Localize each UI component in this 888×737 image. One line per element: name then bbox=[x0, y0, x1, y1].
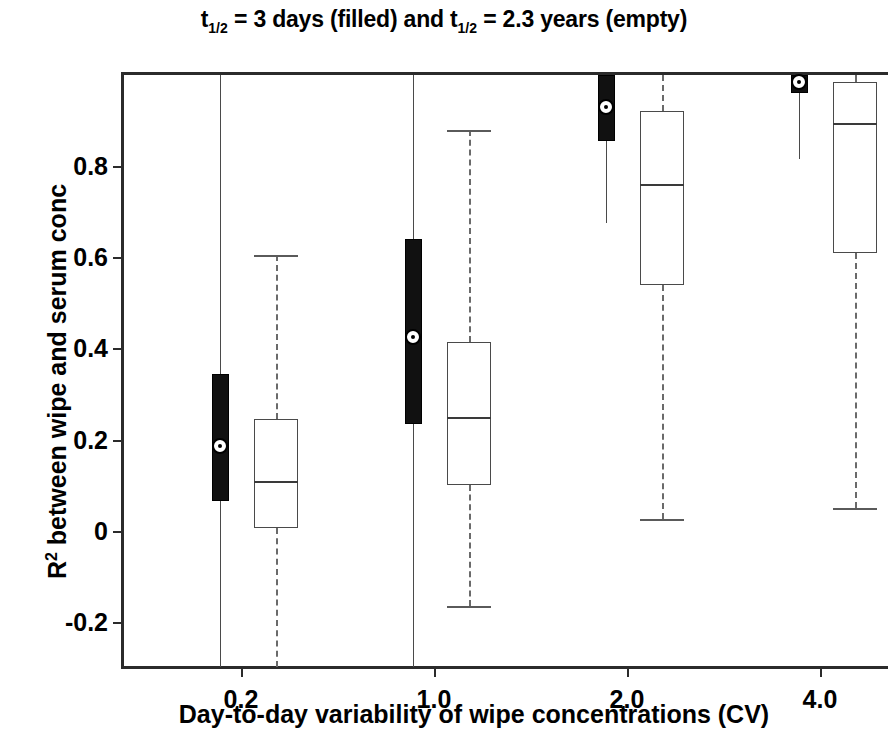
median-marker bbox=[598, 99, 614, 115]
title-t-second: t bbox=[450, 6, 457, 32]
y-tick-label: 0.8 bbox=[0, 154, 124, 179]
median-line bbox=[640, 184, 684, 186]
median-marker bbox=[405, 329, 421, 345]
whisker-lower bbox=[855, 253, 857, 508]
boxplot-empty bbox=[124, 75, 888, 666]
y-tick-label: 0.6 bbox=[0, 245, 124, 270]
whisker-lower bbox=[413, 424, 414, 668]
title-middle-second: = 2.3 years (empty) bbox=[477, 6, 687, 32]
boxplot-filled bbox=[124, 75, 888, 666]
whisker-lower bbox=[469, 485, 471, 606]
x-tick-mark bbox=[434, 666, 436, 677]
box-iqr-empty bbox=[254, 419, 298, 528]
x-tick-label: 1.0 bbox=[364, 685, 504, 714]
box-iqr-empty bbox=[640, 111, 684, 284]
median-marker bbox=[791, 74, 807, 90]
whisker-cap-lower bbox=[640, 519, 684, 521]
whisker-cap-upper bbox=[447, 130, 491, 132]
boxplot-empty bbox=[124, 75, 888, 666]
boxplot-filled bbox=[124, 75, 888, 666]
whisker-upper bbox=[469, 130, 471, 342]
box-iqr-empty bbox=[447, 342, 491, 486]
boxplot-empty bbox=[124, 75, 888, 666]
y-tick-label: -0.2 bbox=[0, 609, 124, 634]
whisker-cap-lower bbox=[833, 508, 877, 510]
box-iqr-empty bbox=[833, 82, 877, 253]
box-iqr-filled bbox=[405, 239, 422, 424]
whisker-lower bbox=[662, 285, 664, 520]
y-tick-label: 0 bbox=[0, 518, 124, 543]
x-tick-label: 0.2 bbox=[171, 685, 311, 714]
median-line bbox=[254, 481, 298, 483]
y-axis-title-rest: between wipe and serum conc bbox=[43, 184, 71, 552]
figure-canvas: t1/2 = 3 days (filled) and t1/2 = 2.3 ye… bbox=[0, 0, 888, 737]
boxplot-filled bbox=[124, 75, 888, 666]
whisker-cap-upper bbox=[254, 255, 298, 257]
x-tick-mark bbox=[241, 666, 243, 677]
whisker-lower bbox=[799, 93, 800, 159]
whisker-upper bbox=[413, 75, 414, 239]
median-line bbox=[447, 417, 491, 419]
x-tick-mark bbox=[820, 666, 822, 677]
whisker-cap-lower bbox=[447, 606, 491, 608]
chart-title: t1/2 = 3 days (filled) and t1/2 = 2.3 ye… bbox=[0, 6, 888, 36]
box-iqr-filled bbox=[791, 75, 808, 93]
boxplot-filled bbox=[124, 75, 888, 666]
whisker-upper bbox=[855, 75, 857, 82]
x-tick-mark bbox=[627, 666, 629, 677]
x-tick-label: 2.0 bbox=[557, 685, 697, 714]
whisker-upper bbox=[276, 255, 278, 419]
plot-area: 0.80.60.40.20-0.2 0.21.02.04.0 bbox=[121, 72, 888, 669]
whisker-lower bbox=[220, 501, 221, 667]
whisker-lower bbox=[276, 528, 278, 667]
y-tick-label: 0.2 bbox=[0, 427, 124, 452]
title-middle-first: = 3 days (filled) and bbox=[228, 6, 450, 32]
median-marker bbox=[212, 438, 228, 454]
box-iqr-filled bbox=[212, 374, 229, 502]
y-tick-label: 0.4 bbox=[0, 336, 124, 361]
boxplot-empty bbox=[124, 75, 888, 666]
y-axis-title-superscript: 2 bbox=[43, 552, 60, 561]
x-tick-label: 4.0 bbox=[750, 685, 888, 714]
title-subscript-first: 1/2 bbox=[208, 20, 227, 36]
y-axis-title-r: R bbox=[43, 561, 71, 579]
box-iqr-filled bbox=[598, 75, 615, 141]
whisker-upper bbox=[220, 75, 221, 374]
title-subscript-second: 1/2 bbox=[458, 20, 477, 36]
whisker-lower bbox=[606, 141, 607, 223]
boxplot-layer bbox=[124, 75, 888, 666]
median-line bbox=[833, 123, 877, 125]
whisker-upper bbox=[662, 75, 664, 111]
